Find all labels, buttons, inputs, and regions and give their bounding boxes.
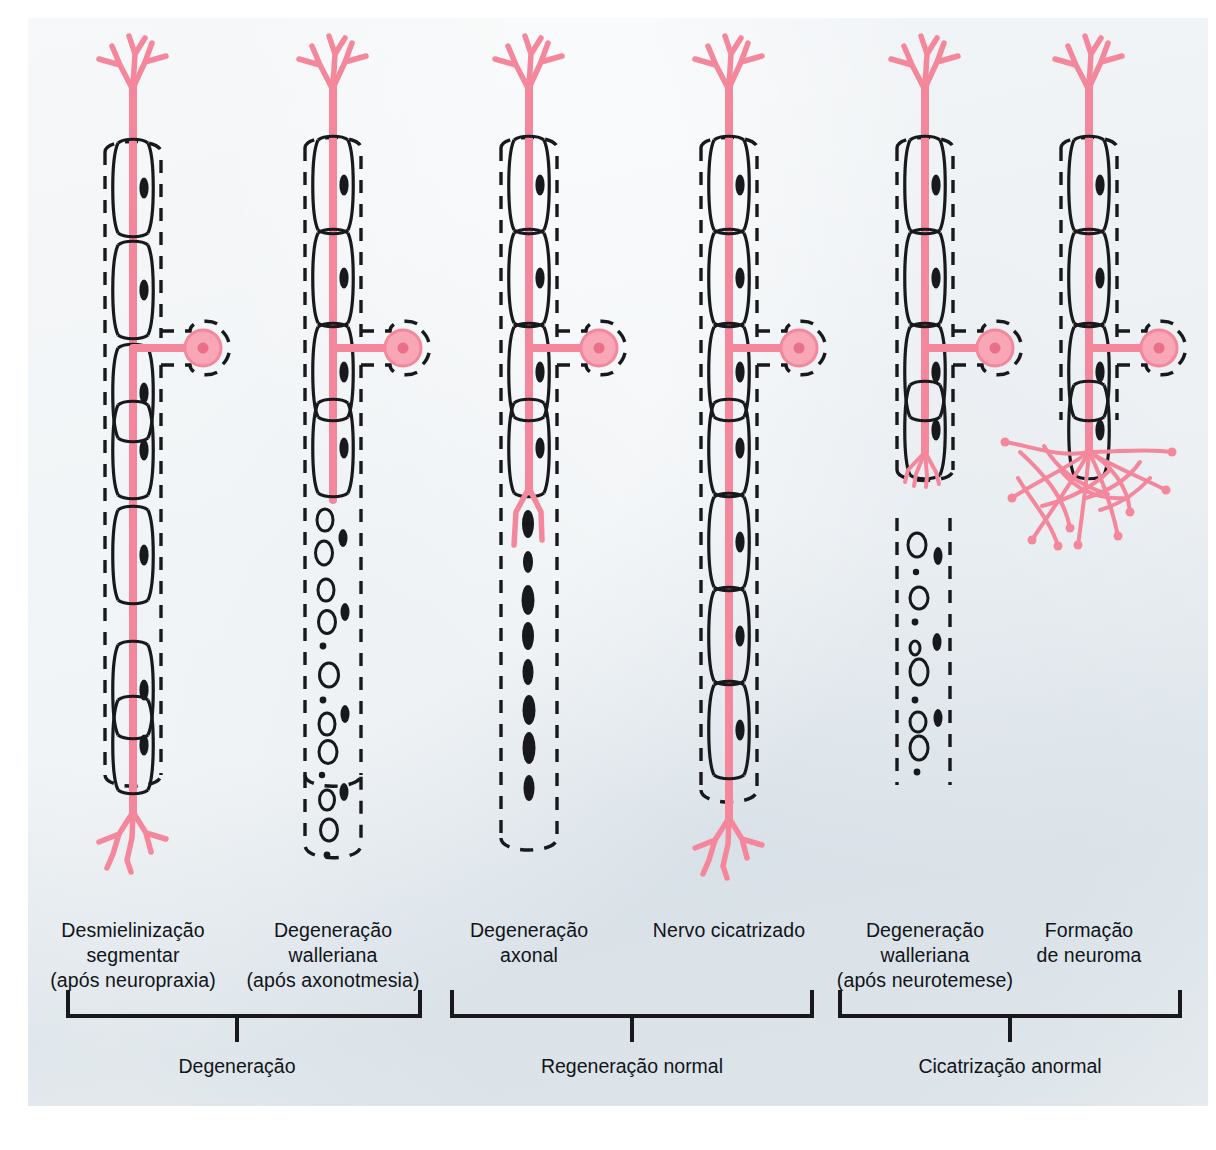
column-label-5-line-3: (após neurotemese): [825, 968, 1025, 993]
column-label-2-line-2: walleriana: [233, 943, 433, 968]
column-label-6: Formação de neuroma: [1009, 918, 1169, 968]
column-label-1: Desmielinização segmentar (após neuropra…: [33, 918, 233, 993]
column-label-3: Degeneração axonal: [439, 918, 619, 968]
column-label-2-line-1: Degeneração: [233, 918, 433, 943]
column-label-5-line-2: walleriana: [825, 943, 1025, 968]
figure-labels: Desmielinização segmentar (após neuropra…: [0, 0, 1216, 1150]
column-label-6-line-1: Formação: [1009, 918, 1169, 943]
column-label-2-line-3: (após axonotmesia): [233, 968, 433, 993]
column-label-3-line-1: Degeneração: [439, 918, 619, 943]
column-label-6-line-2: de neuroma: [1009, 943, 1169, 968]
column-label-4: Nervo cicatrizado: [629, 918, 829, 943]
column-label-3-line-2: axonal: [439, 943, 619, 968]
column-label-1-line-3: (após neuropraxia): [33, 968, 233, 993]
column-label-4-line-1: Nervo cicatrizado: [629, 918, 829, 943]
column-label-2: Degeneração walleriana (após axonotmesia…: [233, 918, 433, 993]
group-label-degeneration: Degeneração: [137, 1054, 337, 1078]
column-label-5: Degeneração walleriana (após neurotemese…: [825, 918, 1025, 993]
group-label-normal-regeneration: Regeneração normal: [507, 1054, 757, 1078]
nerve-degeneration-figure: .ax{stroke:#f4879b;stroke-width:8;stroke…: [0, 0, 1216, 1150]
column-label-5-line-1: Degeneração: [825, 918, 1025, 943]
group-label-abnormal-healing: Cicatrização anormal: [885, 1054, 1135, 1078]
column-label-1-line-2: segmentar: [33, 943, 233, 968]
column-label-1-line-1: Desmielinização: [33, 918, 233, 943]
